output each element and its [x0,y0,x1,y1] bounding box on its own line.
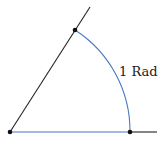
arc-start-point [128,130,133,135]
arc-one-radian [75,30,130,132]
arc-end-point [73,28,78,33]
angled-ray [10,7,90,132]
origin-point [8,130,13,135]
arc-label: 1 Rad [119,64,158,79]
